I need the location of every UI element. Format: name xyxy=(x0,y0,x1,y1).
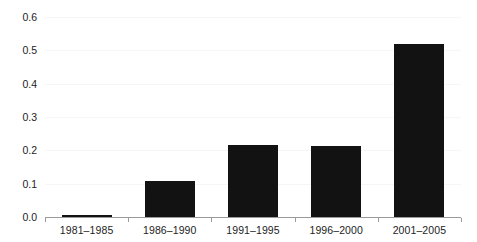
x-axis-tick-mark xyxy=(378,218,379,222)
y-axis-tick-label: 0.5 xyxy=(9,45,37,56)
y-axis-tick-label: 0.6 xyxy=(9,12,37,23)
y-axis-tick-label: 0.0 xyxy=(9,212,37,223)
x-axis-tick-label: 2001–2005 xyxy=(378,225,461,236)
x-axis-line xyxy=(45,217,461,218)
bars-layer xyxy=(45,17,461,217)
x-axis-tick-label: 1986–1990 xyxy=(128,225,211,236)
x-axis-tick-mark xyxy=(461,218,462,222)
x-axis-tick-label: 1991–1995 xyxy=(211,225,294,236)
bar xyxy=(311,146,361,217)
x-axis-tick-mark xyxy=(211,218,212,222)
x-axis-tick-mark xyxy=(295,218,296,222)
plot-area xyxy=(45,17,461,217)
y-axis-tick-label: 0.1 xyxy=(9,178,37,189)
x-axis-tick-mark xyxy=(45,218,46,222)
x-axis-tick-label: 1981–1985 xyxy=(45,225,128,236)
y-axis-tick-label: 0.2 xyxy=(9,145,37,156)
y-axis-tick-label: 0.4 xyxy=(9,78,37,89)
bar xyxy=(228,145,278,217)
y-axis-tick-label: 0.3 xyxy=(9,112,37,123)
bar xyxy=(145,181,195,217)
x-axis-tick-label: 1996–2000 xyxy=(295,225,378,236)
x-axis-tick-mark xyxy=(128,218,129,222)
bar xyxy=(394,44,444,217)
bar-chart: 0.00.10.20.30.40.50.6 1981–19851986–1990… xyxy=(0,0,477,242)
